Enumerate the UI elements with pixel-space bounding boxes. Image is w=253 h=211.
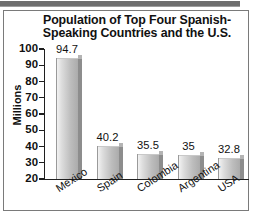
chart-frame: Population of Top Four Spanish- Speaking… xyxy=(3,10,249,211)
y-axis-tick-label: 40 xyxy=(4,141,38,152)
top-cropped-banner-shadow xyxy=(0,6,240,7)
y-axis-tick-label: 100 xyxy=(4,43,38,54)
bar-top-cap xyxy=(179,155,201,156)
chart-title: Population of Top Four Spanish- Speaking… xyxy=(30,14,244,40)
bar-top-face xyxy=(200,152,204,156)
y-axis-tick-label: 70 xyxy=(4,92,38,103)
y-axis-tick-label: 60 xyxy=(4,108,38,119)
y-axis-tick-label: 50 xyxy=(4,124,38,135)
bar-top-face xyxy=(78,55,82,59)
bar-front-face xyxy=(56,58,79,179)
y-axis-tick-label: 80 xyxy=(4,76,38,87)
bar-top-face xyxy=(159,151,163,155)
bar-side-face xyxy=(240,158,244,179)
bar-value-label: 32.8 xyxy=(210,144,248,155)
bar-value-label: 94.7 xyxy=(48,44,86,55)
bar-top-face xyxy=(119,143,123,147)
bar-value-label: 35 xyxy=(170,141,208,152)
bar-side-face xyxy=(78,58,82,179)
bar-value-label: 35.5 xyxy=(129,140,167,151)
bar-value-label: 40.2 xyxy=(89,132,127,143)
bar-top-cap xyxy=(98,146,120,147)
bar-top-cap xyxy=(138,154,160,155)
y-axis-tick-label: 90 xyxy=(4,59,38,70)
bar-top-cap xyxy=(57,58,79,59)
bar[interactable] xyxy=(56,58,78,179)
bar-top-face xyxy=(240,155,244,159)
y-axis-tick-label: 20 xyxy=(4,173,38,184)
bar-top-cap xyxy=(219,158,241,159)
chart-title-line-2: Speaking Countries and the U.S. xyxy=(30,27,244,40)
y-axis-tick-label: 30 xyxy=(4,157,38,168)
